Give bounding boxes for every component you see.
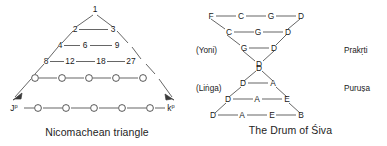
- node-value: C: [238, 11, 244, 21]
- node-circle: [119, 105, 126, 112]
- right-arrow-icon: [159, 79, 174, 100]
- node-circle: [59, 75, 66, 82]
- node-value: G: [268, 11, 275, 21]
- node-circle: [35, 105, 42, 112]
- base-label-left-superscript: p: [15, 103, 18, 109]
- node-value: D: [240, 78, 246, 88]
- node-value: E: [269, 110, 275, 120]
- upper-triangle-edges: [211, 16, 300, 61]
- node-value: D: [210, 110, 216, 120]
- label-prakrti: Prakṛti: [344, 46, 368, 55]
- node-circle: [86, 75, 93, 82]
- base-label-right: kp: [167, 103, 174, 113]
- figure-container: 1 2 3 4 6 9 8 12 18 27: [0, 0, 387, 146]
- node-circle: [113, 75, 120, 82]
- triangle-row-2: 2 3: [73, 24, 116, 34]
- triangle-outer-edges: [35, 15, 155, 74]
- node-value: D: [271, 43, 277, 53]
- node-value: 1: [93, 4, 98, 14]
- side-labels: (Yoni) Prakṛti (Liṅga) Puruṣa: [196, 46, 370, 93]
- node-value: F: [208, 11, 213, 21]
- node-value: A: [254, 94, 260, 104]
- label-linga: (Liṅga): [196, 84, 222, 93]
- node-circle: [32, 75, 39, 82]
- node-value: 4: [58, 40, 63, 50]
- label-yoni: (Yoni): [196, 46, 217, 55]
- node-circle: [147, 105, 154, 112]
- base-label-left: Jp: [10, 103, 17, 113]
- triangle-row-3: 4 6 9: [58, 40, 120, 50]
- triangle-row-4: 8 12 18 27: [44, 56, 136, 66]
- node-value: C: [226, 27, 232, 37]
- node-value: D: [256, 63, 262, 73]
- base-label-right-superscript: p: [172, 103, 175, 109]
- left-arrow-icon: [13, 79, 31, 100]
- node-value: G: [255, 27, 262, 37]
- node-value: D: [225, 94, 231, 104]
- node-value: E: [284, 94, 290, 104]
- node-value: D: [285, 27, 291, 37]
- triangle-row-1: 1: [93, 4, 98, 14]
- lower-triangle-edges: [215, 71, 300, 115]
- node-value: 27: [126, 56, 136, 66]
- label-purusa: Puruṣa: [344, 84, 370, 93]
- panel-nicomachean-triangle: 1 2 3 4 6 9 8 12 18 27: [0, 0, 194, 146]
- node-value: 8: [44, 56, 49, 66]
- node-circle: [140, 75, 147, 82]
- panel-drum-of-siva: F C G D C G D G D D: [194, 0, 387, 146]
- nicomachean-triangle-diagram: 1 2 3 4 6 9 8 12 18 27: [0, 0, 194, 125]
- node-value: G: [241, 43, 248, 53]
- triangle-row-6: Jp kp: [10, 103, 174, 113]
- node-value: 2: [73, 24, 78, 34]
- node-circle: [91, 105, 98, 112]
- node-value: B: [298, 110, 304, 120]
- node-circle: [63, 105, 70, 112]
- node-value: 6: [83, 40, 88, 50]
- triangle-horizontal-edges: [24, 30, 165, 109]
- caption-drum-of-siva: The Drum of Śiva: [194, 124, 387, 136]
- node-value: 3: [111, 24, 116, 34]
- caption-nicomachean-triangle: Nicomachean triangle: [0, 126, 194, 138]
- node-value: D: [298, 11, 304, 21]
- node-value: A: [270, 78, 276, 88]
- lower-triangle-row-1: D: [256, 63, 262, 73]
- node-value: 9: [115, 40, 120, 50]
- drum-of-siva-diagram: F C G D C G D G D D: [194, 0, 387, 124]
- node-value: 18: [96, 56, 106, 66]
- node-value: 12: [65, 56, 75, 66]
- node-value: A: [239, 110, 245, 120]
